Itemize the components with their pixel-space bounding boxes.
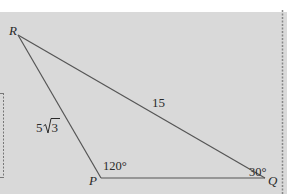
side-label-RQ: 15 [152,95,165,110]
angle-label-P: 120° [103,159,127,173]
side-RP [18,35,101,178]
vertex-label-P: P [88,173,97,188]
side-RP-radicand: 3 [52,120,59,135]
vertex-label-Q: Q [268,173,278,188]
triangle [18,35,265,178]
side-RQ [18,35,265,178]
left-bracket [0,93,4,178]
side-label-RP: 5 3 [36,119,60,136]
vertex-label-R: R [8,23,17,38]
side-RP-coefficient: 5 [36,120,43,135]
angle-label-Q: 30° [249,165,267,179]
triangle-diagram: R P Q 5 3 15 120° 30° [0,0,287,194]
